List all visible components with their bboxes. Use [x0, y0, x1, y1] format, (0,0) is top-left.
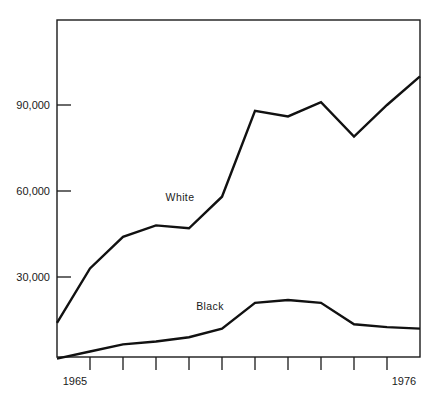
- y-axis-label-60000: 60,000: [16, 185, 50, 197]
- chart-svg: 90,000 60,000 30,000 1965 1976 White Bl: [0, 0, 443, 398]
- x-axis-labels: 1965 1976: [63, 375, 416, 387]
- x-axis-label-1965: 1965: [63, 375, 87, 387]
- x-axis-ticks: [90, 357, 387, 370]
- y-axis-ticks: [57, 105, 71, 277]
- series-annotation-black: Black: [196, 300, 224, 312]
- y-axis-label-90000: 90,000: [16, 99, 50, 111]
- series-line-black: [57, 300, 420, 359]
- series-annotation-white: White: [166, 191, 195, 203]
- x-axis-label-1976: 1976: [392, 375, 416, 387]
- y-axis-label-30000: 30,000: [16, 271, 50, 283]
- series-line-white: [57, 76, 420, 323]
- plot-frame: [57, 20, 420, 357]
- y-axis-labels: 90,000 60,000 30,000: [16, 99, 50, 283]
- line-chart: 90,000 60,000 30,000 1965 1976 White Bl: [0, 0, 443, 398]
